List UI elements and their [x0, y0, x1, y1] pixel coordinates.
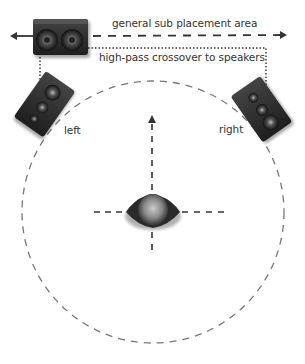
crossover-label: high-pass crossover to speakers [99, 51, 265, 63]
left-label: left [64, 124, 81, 136]
listener-head-icon [125, 194, 181, 230]
right-label: right [219, 123, 243, 135]
subwoofer-icon [33, 19, 90, 58]
sub-placement-label: general sub placement area [112, 17, 257, 29]
listener-axes [94, 115, 228, 250]
